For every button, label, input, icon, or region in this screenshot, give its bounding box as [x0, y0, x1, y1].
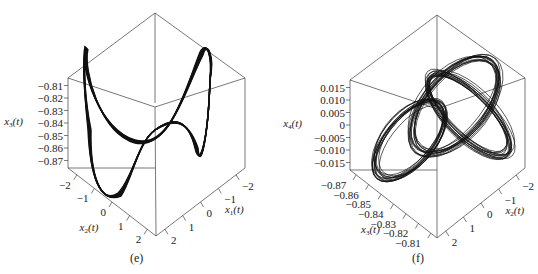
z-tick-label: −0.81	[38, 80, 63, 92]
left-tick	[353, 175, 356, 180]
right-tick-label: 1	[469, 222, 475, 234]
left-tick	[91, 188, 94, 193]
right-tick	[201, 202, 204, 207]
z-axis-label: x4(t)	[282, 117, 302, 131]
axis-label-arg: (t)	[13, 115, 24, 128]
panel-f: 0.0150.0100.0050−0.005−0.010−0.015x4(t)−…	[282, 15, 534, 265]
left-axis-label: x3(t)	[360, 223, 380, 237]
box-edge	[350, 15, 437, 80]
box-frame	[350, 15, 525, 238]
right-tick-label: 2	[171, 234, 177, 246]
box-edge	[68, 13, 155, 78]
left-tick	[403, 214, 406, 219]
box-edge	[155, 13, 245, 78]
z-tick-label: −0.83	[38, 105, 64, 117]
box-edge	[155, 78, 245, 107]
z-tick-label: 0.005	[320, 107, 345, 119]
left-tick	[127, 216, 130, 221]
right-axis-label: x2(t)	[504, 204, 524, 218]
left-axis-label: x2(t)	[79, 221, 99, 235]
right-tick-label: −2	[522, 180, 534, 192]
right-tick	[499, 189, 502, 194]
left-tick-label: 2	[136, 233, 142, 245]
right-tick	[446, 231, 449, 236]
right-tick	[183, 216, 186, 221]
left-tick	[378, 194, 381, 199]
panel-e: −0.81−0.82−0.83−0.84−0.85−0.86−0.87x3(t)…	[3, 13, 254, 265]
axis-label-arg: (t)	[292, 117, 303, 130]
left-tick	[391, 204, 394, 209]
box-edge	[155, 107, 156, 236]
trajectory-loop	[84, 47, 211, 196]
right-tick	[165, 229, 168, 234]
panel-caption: (f)	[412, 251, 424, 265]
left-tick	[74, 175, 77, 180]
right-tick-label: −2	[242, 180, 254, 192]
z-tick-label: −0.84	[38, 117, 64, 129]
z-tick-label: −0.015	[314, 157, 345, 169]
left-tick-label: −0.81	[395, 237, 420, 249]
box-edge	[437, 78, 525, 109]
z-tick-label: −0.85	[38, 130, 64, 142]
left-tick	[366, 185, 369, 190]
right-axis-label: x1(t)	[224, 203, 244, 217]
right-tick-label: 2	[452, 236, 458, 248]
z-tick-label: −0.010	[314, 144, 345, 156]
right-tick	[236, 175, 239, 180]
z-tick-label: −0.005	[314, 132, 345, 144]
box-edge	[437, 15, 525, 78]
axis-label-arg: (t)	[233, 203, 244, 216]
trajectory	[372, 54, 515, 182]
z-tick-label: −0.86	[38, 142, 64, 154]
left-tick	[144, 229, 147, 234]
left-tick	[415, 223, 418, 228]
axis-label-arg: (t)	[514, 204, 525, 217]
figure: −0.81−0.82−0.83−0.84−0.85−0.86−0.87x3(t)…	[0, 0, 538, 274]
trajectory-loop	[84, 48, 211, 197]
left-tick-label: −1	[77, 192, 89, 204]
panel-caption: (e)	[130, 251, 143, 265]
right-tick-label: 0	[487, 208, 493, 220]
left-tick	[428, 233, 431, 238]
right-tick	[218, 188, 221, 193]
trajectory-loop	[84, 47, 211, 196]
left-tick-label: 0	[101, 206, 107, 218]
right-tick-label: 1	[189, 221, 195, 233]
right-tick	[516, 175, 519, 180]
box-edge	[68, 78, 155, 107]
axis-label-arg: (t)	[88, 221, 99, 234]
right-tick	[481, 203, 484, 208]
axis-label-arg: (t)	[369, 223, 380, 236]
left-tick-label: −2	[59, 179, 71, 191]
z-tick-label: 0.010	[320, 94, 345, 106]
right-tick-label: 0	[207, 207, 213, 219]
z-tick-label: 0.015	[320, 82, 345, 94]
left-tick	[109, 202, 112, 207]
box-frame	[68, 13, 245, 236]
z-axis-label: x3(t)	[3, 115, 23, 129]
z-tick-label: −0.87	[38, 155, 64, 167]
z-tick-label: −0.82	[38, 92, 63, 104]
right-tick	[463, 217, 466, 222]
trajectory-loop	[84, 46, 211, 196]
z-tick-label: 0	[340, 119, 346, 131]
trajectory	[84, 46, 212, 198]
left-tick-label: 1	[118, 220, 124, 232]
